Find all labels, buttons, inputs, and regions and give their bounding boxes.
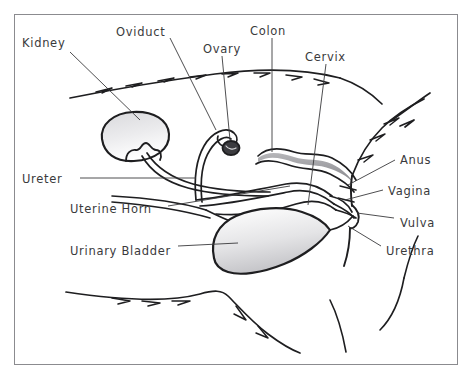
label-vulva: Vulva (400, 218, 435, 230)
label-anus: Anus (400, 155, 431, 167)
back-hair-ticks (96, 73, 329, 93)
belly-hair-ticks (112, 298, 268, 338)
kidney-organ (102, 112, 169, 161)
label-ureter: Ureter (22, 174, 62, 186)
label-urethra: Urethra (386, 246, 434, 258)
label-colon: Colon (250, 26, 286, 38)
ovary-organ (223, 141, 240, 155)
cervix-leader (308, 64, 326, 205)
ovary-leader (222, 56, 230, 140)
urethra-leader (348, 226, 381, 246)
label-cervix: Cervix (305, 52, 346, 64)
label-oviduct: Oviduct (116, 27, 165, 39)
urinary-bladder-organ (213, 208, 330, 274)
label-kidney: Kidney (22, 38, 65, 50)
label-ovary: Ovary (203, 44, 241, 56)
label-urinary-bladder: Urinary Bladder (70, 246, 171, 258)
diagram-page: Kidney Oviduct Ovary Colon Cervix Anus V… (0, 0, 476, 391)
rear-hair-ticks (358, 118, 399, 162)
vulva-leader (357, 213, 394, 218)
label-vagina: Vagina (388, 186, 431, 198)
label-uterine-horn: Uterine Horn (70, 204, 152, 216)
anus-leader (348, 160, 395, 185)
